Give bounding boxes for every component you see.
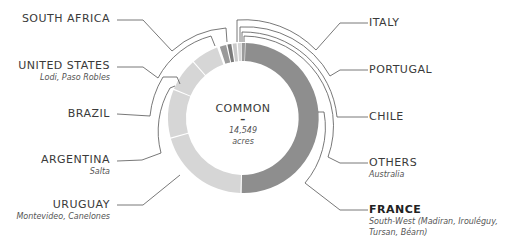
segment-argentina bbox=[168, 90, 190, 137]
label-sub: Tursan, Béarn) bbox=[369, 227, 498, 238]
label-name: SOUTH AFRICA bbox=[22, 12, 110, 25]
center-value: 14,549 bbox=[193, 125, 293, 136]
label-south-africa: SOUTH AFRICA bbox=[22, 12, 110, 25]
label-others: OTHERS Australia bbox=[369, 156, 417, 180]
label-portugal: PORTUGAL bbox=[369, 63, 432, 76]
label-italy: ITALY bbox=[369, 16, 400, 29]
leader-argentina bbox=[117, 86, 175, 161]
center-unit: acres bbox=[193, 136, 293, 147]
label-sub: South-West (Madiran, Irouléguy, bbox=[369, 216, 498, 227]
label-brazil: BRAZIL bbox=[68, 107, 110, 120]
leader-south-africa bbox=[117, 20, 227, 51]
label-sub: Montevideo, Canelones bbox=[16, 211, 110, 222]
label-uruguay: URUGUAY Montevideo, Canelones bbox=[16, 198, 110, 222]
segment-chile bbox=[238, 43, 242, 61]
label-name: ARGENTINA bbox=[41, 153, 110, 166]
label-france: FRANCE South-West (Madiran, Irouléguy, T… bbox=[369, 203, 498, 238]
label-sub: Salta bbox=[41, 166, 110, 177]
label-united-states: UNITED STATES Lodi, Paso Robles bbox=[18, 59, 110, 83]
label-name: BRAZIL bbox=[68, 107, 110, 120]
label-name: CHILE bbox=[369, 110, 404, 123]
label-name: PORTUGAL bbox=[369, 63, 432, 76]
label-chile: CHILE bbox=[369, 110, 404, 123]
label-sub: Australia bbox=[369, 169, 417, 180]
center-label: COMMON – 14,549 acres bbox=[193, 102, 293, 147]
label-sub: Lodi, Paso Robles bbox=[18, 72, 110, 83]
label-name: FRANCE bbox=[369, 203, 498, 216]
segment-others bbox=[242, 43, 245, 61]
leader-uruguay bbox=[117, 175, 180, 205]
label-name: UNITED STATES bbox=[18, 59, 110, 72]
label-name: URUGUAY bbox=[16, 198, 110, 211]
label-name: ITALY bbox=[369, 16, 400, 29]
center-dash: – bbox=[193, 115, 293, 125]
label-name: OTHERS bbox=[369, 156, 417, 169]
label-argentina: ARGENTINA Salta bbox=[41, 153, 110, 177]
